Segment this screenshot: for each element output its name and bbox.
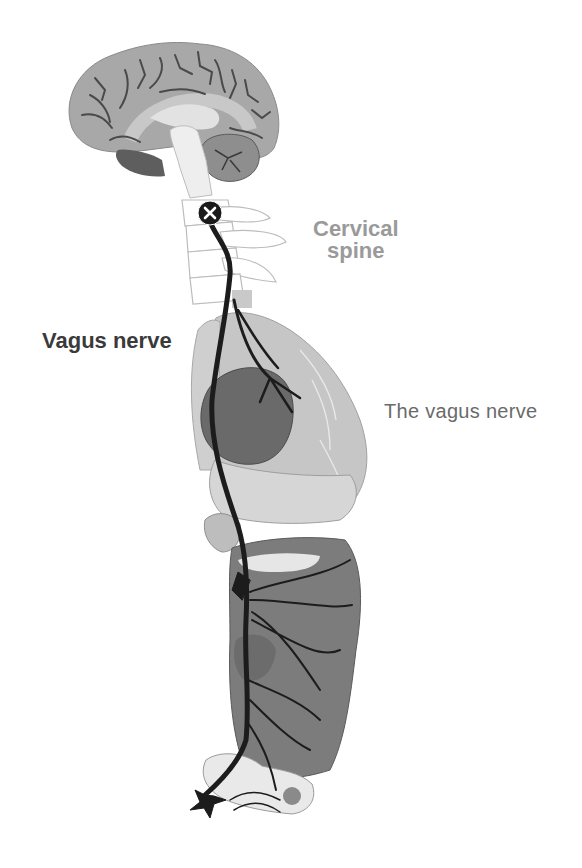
cervical-spine-label: Cervical spine — [313, 218, 399, 262]
cervical-spine-label-line1: Cervical — [313, 218, 399, 240]
cervical-spine-illustration — [182, 200, 286, 308]
cervical-spine-label-line2: spine — [313, 240, 399, 262]
vagus-origin-marker — [198, 201, 222, 225]
diagram-caption: The vagus nerve — [384, 401, 537, 421]
brain-illustration — [69, 43, 279, 199]
vagus-nerve-illustration — [0, 0, 582, 868]
vagus-nerve-label: Vagus nerve — [42, 330, 172, 352]
